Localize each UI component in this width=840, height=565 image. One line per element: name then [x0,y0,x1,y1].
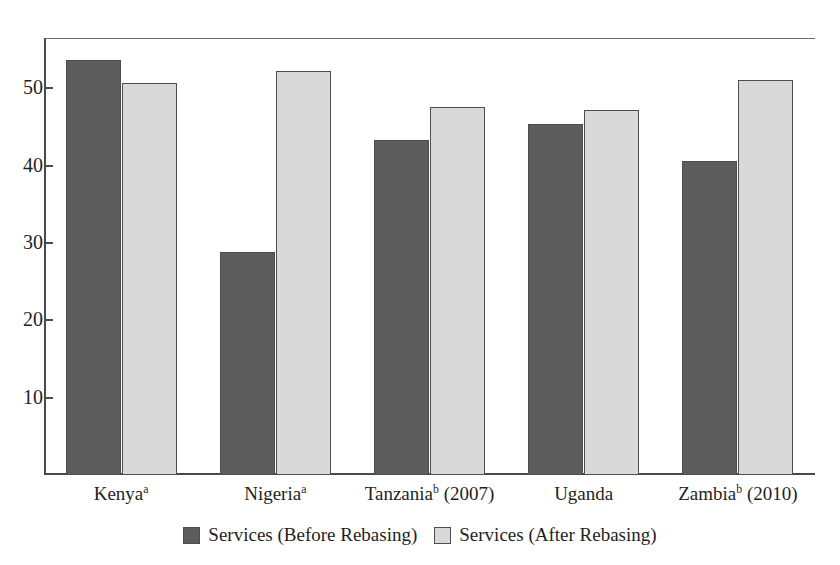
figure-container: 1020304050 KenyaaNigeriaaTanzaniab (2007… [0,0,840,565]
y-tick-label: 20 [0,308,43,330]
bar-after [738,80,793,475]
y-tick-label: 30 [0,231,43,253]
bar-before [682,161,737,475]
bar-before [528,124,583,475]
legend-label: Services (Before Rebasing) [208,524,417,546]
x-axis-label: Tanzaniab (2007) [352,481,506,507]
y-tick-label: 10 [0,386,43,408]
legend-label: Services (After Rebasing) [459,524,656,546]
legend-item: Services (Before Rebasing) [183,524,417,546]
y-tick-label: 40 [0,154,43,176]
x-axis-label: Kenyaa [44,481,198,507]
bar-series-layer [44,38,815,475]
legend-item: Services (After Rebasing) [434,524,656,546]
legend-swatch-before [183,527,200,544]
y-tick-label: 50 [0,76,43,98]
bar-after [122,83,177,475]
legend-swatch-after [434,527,451,544]
x-axis-category-labels: KenyaaNigeriaaTanzaniab (2007)UgandaZamb… [44,481,815,511]
chart-legend: Services (Before Rebasing)Services (Afte… [0,524,840,546]
bar-after [276,71,331,475]
x-axis-label: Uganda [507,481,661,507]
x-axis-label: Nigeriaa [198,481,352,507]
bar-before [374,140,429,475]
bar-after [584,110,639,475]
x-axis-label: Zambiab (2010) [661,481,815,507]
bar-after [430,107,485,475]
bar-before [220,252,275,475]
bar-before [66,60,121,475]
